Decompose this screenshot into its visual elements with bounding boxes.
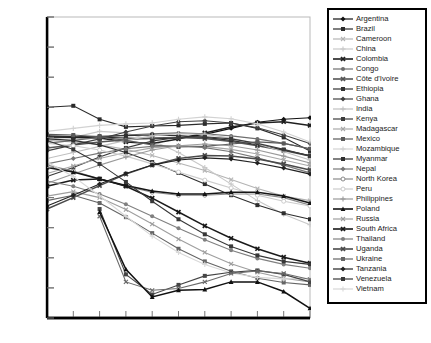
legend-label: Cameroon — [354, 34, 391, 44]
legend-marker-square-icon — [332, 24, 354, 34]
legend-item[interactable]: Uganda — [332, 244, 423, 254]
legend-item[interactable]: Cameroon — [332, 34, 423, 44]
legend-label: Thailand — [354, 234, 385, 244]
legend-label: Argentina — [354, 14, 389, 24]
legend-marker-triangle-icon — [332, 204, 354, 214]
legend-item[interactable]: Vietnam — [332, 284, 423, 294]
legend-label: Tanzania — [354, 264, 386, 274]
legend-marker-diamond-icon — [332, 14, 354, 24]
legend-item[interactable]: China — [332, 44, 423, 54]
series-line — [45, 190, 312, 284]
legend-marker-diamond-icon — [332, 264, 354, 274]
legend-marker-plus-icon — [332, 284, 354, 294]
legend-label: Mozambique — [354, 144, 399, 154]
legend-label: Ghana — [354, 94, 379, 104]
legend-item[interactable]: Philippines — [332, 194, 423, 204]
legend-item[interactable]: Peru — [332, 184, 423, 194]
legend-item[interactable]: Brazil — [332, 24, 423, 34]
legend-marker-x-thick-icon — [332, 244, 354, 254]
legend-marker-diamond-icon — [332, 164, 354, 174]
legend-item[interactable]: Mexico — [332, 134, 423, 144]
legend-marker-x-thick-icon — [332, 224, 354, 234]
legend-item[interactable]: Colombia — [332, 54, 423, 64]
legend-item[interactable]: Côte d'Ivoire — [332, 74, 423, 84]
legend-marker-plus-icon — [332, 194, 354, 204]
legend-marker-plus-icon — [332, 104, 354, 114]
legend-marker-circle-open-icon — [332, 174, 354, 184]
legend-label: Congo — [354, 64, 378, 74]
legend-label: Vietnam — [354, 284, 384, 294]
legend-marker-square-icon — [332, 154, 354, 164]
legend-item[interactable]: Congo — [332, 64, 423, 74]
legend-label: Myanmar — [354, 154, 388, 164]
legend-label: South Africa — [354, 224, 397, 234]
legend-marker-x-icon — [332, 214, 354, 224]
legend-marker-square-icon — [332, 84, 354, 94]
legend-label: Kenya — [354, 114, 378, 124]
legend-marker-circle-icon — [332, 64, 354, 74]
legend-label: Ukraine — [354, 254, 382, 264]
legend-label: Peru — [354, 184, 372, 194]
legend-label: Ethiopia — [354, 84, 383, 94]
legend-item[interactable]: Kenya — [332, 114, 423, 124]
chart-figure: Percentage of population Year 0.040.050.… — [0, 0, 431, 343]
legend-item[interactable]: North Korea — [332, 174, 423, 184]
legend-label: North Korea — [354, 174, 397, 184]
legend-item[interactable]: Ghana — [332, 94, 423, 104]
legend-marker-x-icon — [332, 34, 354, 44]
legend-item[interactable]: Thailand — [332, 234, 423, 244]
legend-item[interactable]: Ukraine — [332, 254, 423, 264]
legend-label: Colombia — [354, 54, 388, 64]
legend-marker-x-thick-icon — [332, 74, 354, 84]
legend-marker-x-thick-icon — [332, 54, 354, 64]
legend-item[interactable]: Madagascar — [332, 124, 423, 134]
legend-item[interactable]: Poland — [332, 204, 423, 214]
legend-marker-circle-open-icon — [332, 184, 354, 194]
legend-item[interactable]: Ethiopia — [332, 84, 423, 94]
legend-item[interactable]: Venezuela — [332, 274, 423, 284]
legend-item[interactable]: Russia — [332, 214, 423, 224]
legend-label: Nepal — [354, 164, 376, 174]
legend-box: ArgentinaBrazilCameroonChinaColombiaCong… — [327, 8, 427, 304]
legend-label: Côte d'Ivoire — [354, 74, 398, 84]
legend-item[interactable]: Myanmar — [332, 154, 423, 164]
legend-label: Venezuela — [354, 274, 391, 284]
legend-label: China — [354, 44, 376, 54]
legend-label: Madagascar — [354, 124, 398, 134]
legend-item[interactable]: South Africa — [332, 224, 423, 234]
legend-label: Mexico — [354, 134, 380, 144]
legend-marker-square-icon — [332, 254, 354, 264]
legend-item[interactable]: Tanzania — [332, 264, 423, 274]
legend-label: India — [354, 104, 372, 114]
legend-marker-plus-icon — [332, 144, 354, 154]
legend-label: Brazil — [354, 24, 375, 34]
legend-marker-plus-icon — [332, 44, 354, 54]
legend-label: Russia — [354, 214, 379, 224]
legend-label: Poland — [354, 204, 380, 214]
legend-item[interactable]: Mozambique — [332, 144, 423, 154]
legend-marker-square-icon — [332, 134, 354, 144]
legend-item[interactable]: India — [332, 104, 423, 114]
legend-marker-circle-icon — [332, 234, 354, 244]
legend-item[interactable]: Nepal — [332, 164, 423, 174]
legend-marker-square-icon — [332, 114, 354, 124]
legend-marker-diamond-icon — [332, 94, 354, 104]
legend-label: Uganda — [354, 244, 383, 254]
legend-item[interactable]: Argentina — [332, 14, 423, 24]
legend-marker-square-icon — [332, 274, 354, 284]
legend-marker-x-icon — [332, 124, 354, 134]
legend-label: Philippines — [354, 194, 393, 204]
